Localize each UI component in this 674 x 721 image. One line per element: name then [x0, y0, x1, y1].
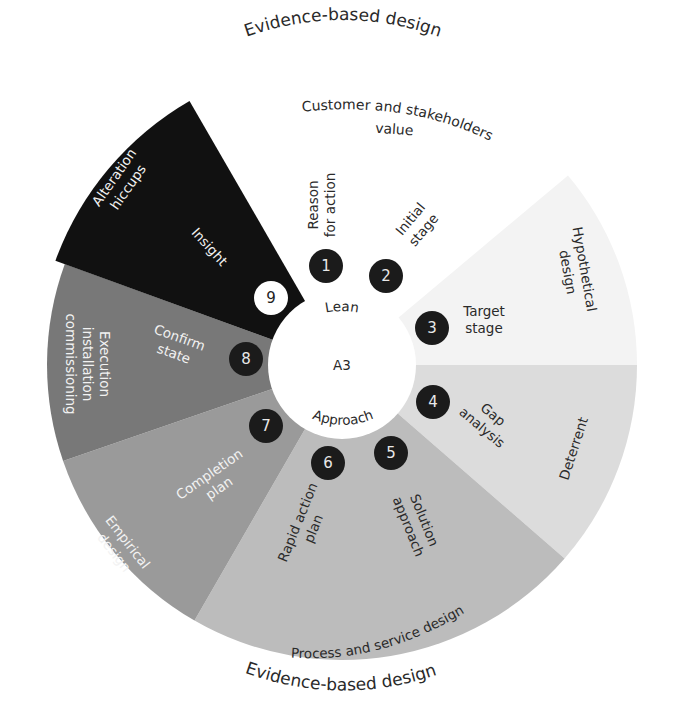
- svg-text:3: 3: [427, 319, 437, 337]
- customer-value-label-line2: value: [375, 120, 414, 139]
- title-top: Evidence-based design: [242, 4, 445, 41]
- svg-text:5: 5: [386, 444, 396, 462]
- svg-text:1: 1: [321, 257, 331, 275]
- svg-text:6: 6: [323, 454, 333, 472]
- svg-text:7: 7: [261, 417, 271, 435]
- step-badge-6[interactable]: 6: [311, 446, 345, 480]
- step-3-label-line1: Target: [462, 303, 505, 319]
- svg-text:8: 8: [241, 350, 251, 368]
- svg-text:2: 2: [381, 267, 391, 285]
- svg-text:9: 9: [266, 289, 276, 307]
- a3-lean-diagram: Evidence-based design Customer and stake…: [0, 0, 674, 721]
- center-lean-label: Lean: [324, 298, 360, 316]
- title-bottom: Evidence-based design: [243, 658, 438, 695]
- execution-label-line3: commissioning: [63, 313, 79, 414]
- step-badge-9[interactable]: 9: [254, 281, 288, 315]
- center-a3-label: A3: [333, 357, 351, 373]
- step-badge-5[interactable]: 5: [374, 436, 408, 470]
- svg-text:4: 4: [428, 393, 438, 411]
- step-badge-8[interactable]: 8: [229, 342, 263, 376]
- step-badge-2[interactable]: 2: [369, 259, 403, 293]
- execution-label-line2: installation: [80, 327, 96, 402]
- execution-label-line1: Execution: [97, 331, 113, 397]
- step-1-label-line1: Reason: [305, 180, 321, 229]
- step-badge-3[interactable]: 3: [415, 311, 449, 345]
- step-badge-4[interactable]: 4: [416, 385, 450, 419]
- step-badge-1[interactable]: 1: [309, 249, 343, 283]
- step-badge-7[interactable]: 7: [249, 409, 283, 443]
- step-1-label-line2: for action: [322, 173, 338, 237]
- step-3-label-line2: stage: [465, 320, 502, 336]
